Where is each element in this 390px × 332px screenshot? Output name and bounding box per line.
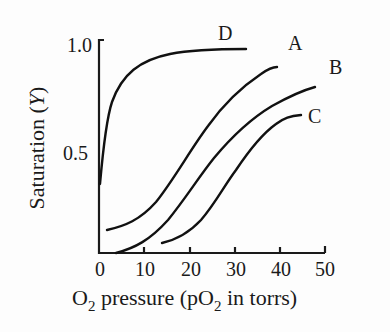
curve-label-b: B bbox=[329, 56, 342, 78]
x-tick-label-30: 30 bbox=[226, 258, 246, 280]
x-tick-label-20: 20 bbox=[181, 258, 201, 280]
y-axis-label: Saturation (Y) bbox=[24, 87, 49, 210]
curve-label-d: D bbox=[218, 22, 232, 44]
y-tick-label-05: 0.5 bbox=[63, 142, 88, 164]
curve-b bbox=[116, 87, 315, 253]
y-tick-label-1: 1.0 bbox=[67, 34, 92, 56]
curve-d bbox=[100, 49, 246, 184]
x-tick-label-10: 10 bbox=[135, 258, 155, 280]
x-tick-label-50: 50 bbox=[315, 258, 335, 280]
curve-c bbox=[162, 115, 301, 243]
x-axis-label: O2 pressure (pO2 in torrs) bbox=[72, 285, 297, 314]
x-tick-label-0: 0 bbox=[95, 258, 105, 280]
oxygen-saturation-chart: D A B C 1.0 0.5 0 10 20 30 40 50 Saturat… bbox=[0, 0, 390, 332]
curve-label-a: A bbox=[288, 32, 303, 54]
x-tick-label-40: 40 bbox=[271, 258, 291, 280]
curve-label-c: C bbox=[308, 105, 321, 127]
